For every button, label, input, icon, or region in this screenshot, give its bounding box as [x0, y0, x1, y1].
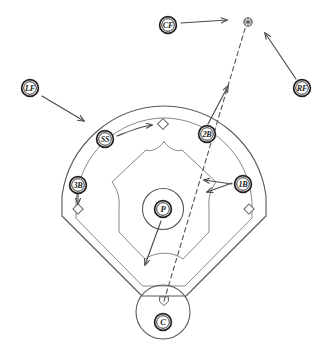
movement-arrow-rf — [265, 33, 296, 79]
position-label-cf[interactable]: CF — [160, 17, 177, 34]
movement-arrow-2b — [208, 86, 228, 124]
movement-arrow-lf — [42, 96, 84, 121]
position-label-text: LF — [24, 84, 36, 93]
position-label-p[interactable]: P — [155, 201, 172, 218]
ball-landing-marker — [244, 18, 252, 26]
position-label-rf[interactable]: RF — [294, 80, 311, 97]
third-base-bag — [73, 204, 83, 214]
movement-arrow-p — [145, 221, 161, 265]
position-label-text: RF — [296, 84, 308, 93]
second-base-bag — [158, 119, 169, 130]
position-label-text: 3B — [72, 181, 83, 190]
movement-arrow-1b — [204, 180, 232, 192]
baseball-field-graphic: LFCFRFSS2B1B3BPC — [0, 0, 328, 351]
position-label-2b[interactable]: 2B — [199, 126, 216, 143]
position-label-text: SS — [101, 135, 110, 144]
position-label-text: 1B — [238, 180, 248, 189]
position-label-text: CF — [163, 21, 174, 30]
movement-arrow-cf — [181, 20, 227, 23]
position-badge-group: LFCFRFSS2B1B3BPC — [22, 17, 311, 331]
position-label-1b[interactable]: 1B — [235, 176, 252, 193]
position-label-text: C — [160, 317, 166, 327]
ball-trajectory-path — [164, 27, 246, 301]
position-label-ss[interactable]: SS — [97, 131, 114, 148]
position-label-c[interactable]: C — [155, 314, 172, 331]
movement-arrow-ss — [117, 125, 152, 136]
baseball-diagram: LFCFRFSS2B1B3BPC — [0, 0, 328, 351]
position-label-3b[interactable]: 3B — [70, 177, 87, 194]
position-label-lf[interactable]: LF — [22, 80, 39, 97]
first-base-bag — [244, 204, 254, 214]
position-label-text: 2B — [201, 130, 212, 139]
